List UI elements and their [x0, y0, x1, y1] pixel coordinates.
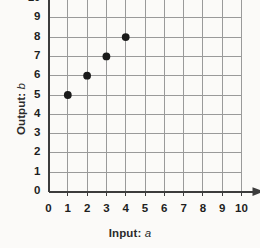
gridlines — [49, 0, 242, 192]
x-axis-title: Input: a — [0, 227, 260, 239]
y-axis-title: Output: b — [15, 49, 27, 169]
data-points — [64, 33, 130, 99]
x-tick-label: 10 — [231, 202, 253, 214]
y-tick-label: 10 — [19, 0, 41, 3]
x-axis-title-prefix: Input: — [109, 227, 142, 239]
y-tick-label: 8 — [19, 30, 41, 42]
y-tick-label: 9 — [19, 10, 41, 22]
x-axis-title-variable: a — [145, 227, 152, 239]
coordinate-plane-chart: 012345678910012345678910 Input: a Output… — [0, 0, 260, 248]
y-axis-title-prefix: Output: — [15, 93, 27, 135]
axis-lines — [44, 0, 260, 196]
y-axis-title-variable: b — [15, 83, 27, 90]
y-tick-label: 0 — [19, 184, 41, 196]
